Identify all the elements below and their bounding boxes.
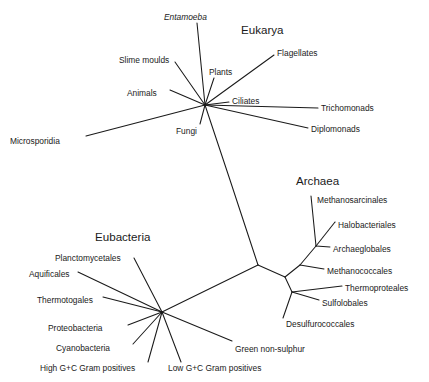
branch-arch-desulfurococcales [283,292,292,318]
taxon-label-thermoproteales: Thermoproteales [345,284,408,292]
domain-title-eubacteria: Eubacteria [95,231,150,243]
domain-title-archaea: Archaea [296,175,339,187]
taxon-label-trichomonads: Trichomonads [321,104,374,112]
taxon-label-methanosarcinales: Methanosarcinales [317,196,387,204]
taxon-label-sulfolobales: Sulfolobales [322,299,368,307]
branch-arch-a-archaeglobales [316,246,330,247]
taxon-label-halobacteriales: Halobacteriales [338,221,396,229]
domain-title-eukarya: Eukarya [241,24,284,36]
taxon-label-animals: Animals [127,89,157,97]
branch-eub-green-non-sulphur [162,312,232,341]
branch-euk-diplomonads [205,105,308,128]
branch-eub-thermotogales [103,297,162,312]
branch-euk-plants [205,78,214,105]
branch-arch-thermoproteales [292,286,342,292]
taxon-label-high-gc-gram-positives: High G+C Gram positives [40,364,135,372]
taxon-label-diplomonads: Diplomonads [311,125,360,133]
branch-arch-sulfolobales [292,292,319,300]
branch-eub-aquificales [78,272,162,312]
branch-eub-low-gc [162,312,181,362]
taxon-label-ciliates: Ciliates [232,97,259,105]
branch-euk-entamoeba [197,23,205,105]
taxon-label-thermotogales: Thermotogales [37,296,93,304]
phylogenetic-tree-figure: EntamoebaSlime mouldsPlantsFlagellatesAn… [0,0,429,382]
branch-euk-trichomonads [205,105,318,108]
taxon-label-plants: Plants [209,68,232,76]
taxon-label-methanococcales: Methanococcales [327,267,392,275]
branch-arch-root-lower [285,277,292,292]
branch-euk-fungi [200,105,205,124]
branch-arch-a-methanosarcinales [311,196,316,246]
taxon-label-planctomycetales: Planctomycetales [55,254,121,262]
branch-arch-a-halobacteriales [316,222,335,246]
branch-trunk-eukarya [205,105,258,265]
branch-arch-methanococcales [300,265,324,269]
taxon-label-green-non-sulphur: Green non-sulphur [235,345,305,353]
taxon-label-fungi: Fungi [176,127,197,135]
taxon-label-cyanobacteria: Cyanobacteria [56,344,110,352]
branch-arch-root-upper [285,265,300,277]
taxon-label-slime-moulds: Slime moulds [119,56,169,64]
branch-trunk-eubacteria [162,265,258,312]
branch-eub-proteobacteria [128,312,162,325]
taxon-label-entamoeba: Entamoeba [164,13,207,21]
taxon-label-aquificales: Aquificales [29,270,70,278]
branch-trunk-archaea [258,265,285,277]
branch-arch-upper-link [300,246,316,265]
taxon-label-proteobacteria: Proteobacteria [48,324,102,332]
branch-eub-planctomycetales [134,258,162,312]
taxon-label-low-gc-gram-positives: Low G+C Gram positives [168,364,261,372]
taxon-label-desulfurococcales: Desulfurococcales [286,320,354,328]
taxon-label-microsporidia: Microsporidia [10,137,60,145]
taxon-label-flagellates: Flagellates [277,49,318,57]
taxon-label-archaeglobales: Archaeglobales [333,245,391,253]
